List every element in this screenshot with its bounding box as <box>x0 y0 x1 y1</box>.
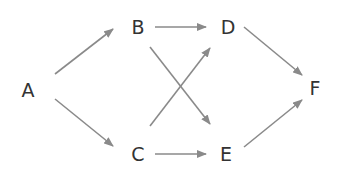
node-f: F <box>310 79 321 98</box>
edge-a-c-arrow-icon <box>55 99 113 146</box>
node-c: C <box>131 145 144 164</box>
node-b: B <box>131 18 144 37</box>
node-a: A <box>22 81 35 100</box>
edge-e-f-arrow-icon <box>244 100 302 147</box>
edges-layer <box>0 0 343 175</box>
node-d: D <box>221 18 236 37</box>
edge-a-b-arrow-icon <box>55 29 113 74</box>
edge-d-f-arrow-icon <box>244 27 302 75</box>
node-e: E <box>220 145 232 164</box>
